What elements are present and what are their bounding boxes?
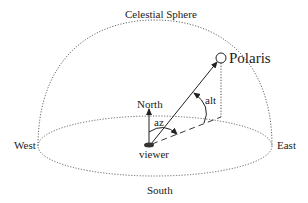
polaris-star-icon [216, 53, 226, 63]
celestial-sphere-diagram: Celestial Sphere Polaris North alt az We… [0, 0, 308, 203]
celestial-sphere-label: Celestial Sphere [125, 8, 197, 20]
south-label: South [147, 184, 173, 196]
azimuth-label: az [154, 116, 164, 128]
viewer-label: viewer [139, 148, 169, 160]
polaris-label: Polaris [229, 50, 271, 66]
north-label: North [137, 98, 163, 110]
altitude-label: alt [205, 94, 216, 106]
west-label: West [14, 139, 36, 151]
viewer-marker [144, 143, 154, 148]
east-label: East [277, 139, 296, 151]
